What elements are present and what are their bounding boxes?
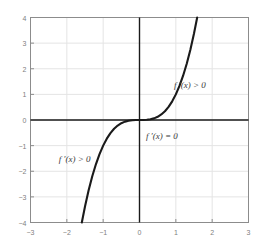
x-tick-label: 3 bbox=[247, 229, 251, 236]
x-tick-label: 1 bbox=[174, 229, 178, 236]
plot-canvas bbox=[0, 0, 265, 250]
y-tick-label: −3 bbox=[19, 193, 27, 200]
y-tick-label: −1 bbox=[19, 142, 27, 149]
x-tick-label: 2 bbox=[210, 229, 214, 236]
cubic-function-chart: −3−2−10123 43210−1−2−3−4 f ′(x) > 0f ′(x… bbox=[0, 0, 265, 250]
annotation-origin: f ′(x) = 0 bbox=[146, 131, 178, 140]
annotation-lower-left: f ′(x) > 0 bbox=[59, 154, 91, 163]
x-tick-label: 0 bbox=[138, 229, 142, 236]
x-tick-label: −3 bbox=[27, 229, 35, 236]
y-tick-label: 3 bbox=[23, 40, 27, 47]
y-tick-label: 1 bbox=[23, 91, 27, 98]
y-tick-label: 0 bbox=[23, 117, 27, 124]
annotation-upper-right: f ′(x) > 0 bbox=[174, 81, 206, 90]
y-tick-label: 2 bbox=[23, 65, 27, 72]
x-tick-label: −2 bbox=[63, 229, 71, 236]
y-tick-label: 4 bbox=[23, 14, 27, 21]
y-tick-label: −4 bbox=[19, 219, 27, 226]
x-tick-label: −1 bbox=[99, 229, 107, 236]
y-tick-label: −2 bbox=[19, 168, 27, 175]
